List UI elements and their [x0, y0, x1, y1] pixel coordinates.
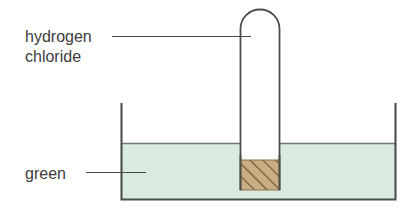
- gas-label-line1: hydrogen: [25, 28, 92, 45]
- diagram-canvas: hydrogen chloride green: [0, 0, 413, 222]
- liquid-label: green: [25, 165, 66, 182]
- diagram-svg: hydrogen chloride green: [0, 0, 413, 222]
- plug-hatch-fill: [241, 160, 279, 190]
- porous-plug: [241, 160, 279, 190]
- gas-label-line2: chloride: [25, 48, 81, 65]
